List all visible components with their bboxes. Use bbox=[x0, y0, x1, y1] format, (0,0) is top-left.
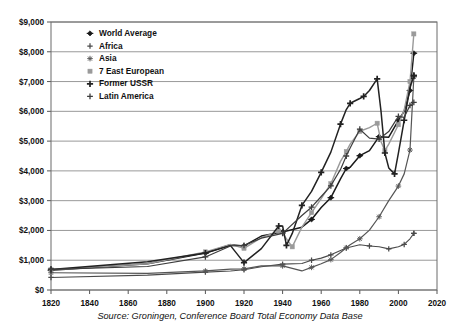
y-tick-label: $0 bbox=[35, 286, 45, 295]
data-point-marker bbox=[290, 245, 294, 249]
source-note: Source: Groningen, Conference Board Tota… bbox=[97, 311, 362, 321]
y-tick-label: $3,000 bbox=[19, 197, 44, 206]
legend-item-label: Former USSR bbox=[99, 78, 153, 88]
legend-item-label: Latin America bbox=[99, 91, 154, 101]
data-point-marker bbox=[375, 121, 379, 125]
x-tick-label: 1980 bbox=[351, 299, 370, 308]
gdp-per-capita-line-chart: $0$1,000$2,000$3,000$4,000$5,000$6,000$7… bbox=[0, 0, 461, 334]
data-point-marker bbox=[203, 268, 209, 274]
data-point-marker bbox=[376, 214, 382, 220]
y-tick-label: $9,000 bbox=[19, 18, 44, 27]
y-tick-label: $7,000 bbox=[19, 78, 44, 87]
legend-item-label: World Average bbox=[99, 28, 157, 38]
y-tick-label: $1,000 bbox=[19, 256, 44, 265]
data-point-marker bbox=[343, 245, 349, 251]
data-point-marker bbox=[309, 210, 313, 214]
y-tick-label: $4,000 bbox=[19, 167, 44, 176]
data-point-marker bbox=[309, 265, 315, 271]
data-point-marker bbox=[280, 263, 286, 269]
data-point-marker bbox=[357, 236, 363, 242]
data-point-marker bbox=[412, 32, 416, 36]
chart-background bbox=[0, 0, 461, 334]
x-tick-label: 1820 bbox=[42, 299, 61, 308]
data-point-marker bbox=[277, 229, 281, 233]
data-point-marker bbox=[88, 69, 92, 73]
x-tick-label: 1960 bbox=[312, 299, 331, 308]
x-tick-label: 1940 bbox=[273, 299, 292, 308]
data-point-marker bbox=[396, 123, 400, 127]
data-point-marker bbox=[407, 147, 413, 153]
legend-item-label: Asia bbox=[99, 53, 117, 63]
y-tick-label: $6,000 bbox=[19, 107, 44, 116]
y-tick-label: $2,000 bbox=[19, 226, 44, 235]
legend-item-label: Africa bbox=[99, 41, 123, 51]
x-tick-label: 1920 bbox=[235, 299, 254, 308]
x-tick-label: 1860 bbox=[119, 299, 138, 308]
legend-item-label: 7 East European bbox=[99, 66, 164, 76]
legend-item-7-east-european[interactable]: 7 East European bbox=[88, 66, 164, 76]
data-point-marker bbox=[241, 266, 247, 272]
data-point-marker bbox=[328, 257, 334, 263]
y-tick-label: $8,000 bbox=[19, 48, 44, 57]
x-tick-label: 1880 bbox=[158, 299, 177, 308]
data-point-marker bbox=[396, 183, 402, 189]
x-tick-label: 1900 bbox=[196, 299, 215, 308]
chart-screenshot: $0$1,000$2,000$3,000$4,000$5,000$6,000$7… bbox=[0, 0, 461, 334]
x-tick-label: 2000 bbox=[389, 299, 408, 308]
data-point-marker bbox=[87, 56, 93, 62]
y-tick-label: $5,000 bbox=[19, 137, 44, 146]
x-tick-label: 1840 bbox=[80, 299, 99, 308]
x-tick-label: 2020 bbox=[428, 299, 447, 308]
